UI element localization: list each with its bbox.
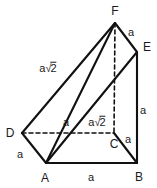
- length-label-DF: a√2: [39, 62, 56, 75]
- vertex-label-c: C: [110, 138, 119, 150]
- edge-D-A: [22, 133, 46, 163]
- vertex-label-e: E: [143, 41, 151, 53]
- length-label-EB: a: [140, 105, 146, 116]
- vertex-label-f: F: [111, 5, 118, 17]
- length-label-DA: a: [17, 149, 23, 160]
- vertex-label-d: D: [6, 127, 15, 139]
- vertex-label-b: B: [135, 171, 143, 183]
- length-label-AB: a: [88, 172, 94, 183]
- length-label-AF: a√2: [88, 116, 105, 129]
- length-label-DC: a: [63, 117, 69, 128]
- vertex-label-a: A: [41, 172, 49, 184]
- length-label-CB: a: [125, 134, 131, 145]
- length-label-FE: a: [128, 27, 134, 38]
- geometry-figure: FEDCABa√2aaaaaaa√2: [0, 0, 157, 188]
